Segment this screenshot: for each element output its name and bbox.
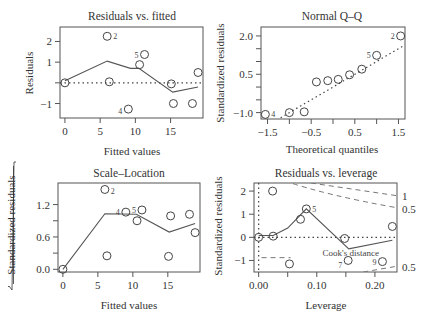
data-point bbox=[300, 108, 308, 116]
cooks-distance-05-upper bbox=[285, 181, 397, 208]
y-tick-label: 2 bbox=[47, 35, 53, 47]
plot-area: −1.5−0.50.51.5−1.00.52.0452 bbox=[233, 27, 406, 138]
data-point bbox=[122, 208, 130, 216]
residuals-vs-leverage-panel: Residuals vs. leverage Leverage Standard… bbox=[212, 167, 416, 311]
data-point bbox=[312, 78, 320, 86]
x-axis-label: Fitted values bbox=[101, 299, 158, 311]
plot-area: 0510150.00.61.2245 bbox=[36, 183, 200, 291]
data-point bbox=[397, 32, 405, 40]
data-point bbox=[136, 61, 144, 69]
data-point bbox=[124, 105, 132, 113]
smoother-line bbox=[65, 61, 198, 92]
panel-title: Residuals vs. leverage bbox=[275, 167, 378, 180]
panel-title: Normal Q–Q bbox=[302, 10, 363, 22]
x-tick-label: 5 bbox=[95, 279, 101, 291]
y-tick-label: −1 bbox=[40, 98, 52, 110]
data-point bbox=[324, 77, 332, 85]
data-point bbox=[297, 215, 305, 223]
data-point bbox=[378, 258, 386, 266]
y-tick-label: −1 bbox=[234, 254, 246, 266]
point-label: 2 bbox=[111, 187, 115, 196]
data-point bbox=[165, 252, 173, 260]
data-point bbox=[346, 71, 354, 79]
data-point bbox=[101, 185, 109, 193]
x-axis-label: Leverage bbox=[306, 299, 347, 311]
data-point bbox=[141, 51, 149, 59]
x-tick-label: −0.5 bbox=[301, 126, 321, 138]
panel-title: Residuals vs. fitted bbox=[88, 10, 176, 22]
smoother-line bbox=[63, 214, 195, 270]
data-point bbox=[105, 78, 113, 86]
point-label: 9 bbox=[372, 258, 376, 267]
normal-qq-panel: Normal Q–Q Theoretical quantiles Standar… bbox=[214, 10, 406, 155]
data-point bbox=[138, 206, 146, 214]
point-label: 5 bbox=[312, 205, 316, 214]
data-point bbox=[358, 65, 366, 73]
x-tick-label: 0 bbox=[60, 279, 66, 291]
point-label: 4 bbox=[271, 110, 275, 119]
x-axis-label: Fitted values bbox=[104, 145, 161, 157]
x-tick-label: 1.5 bbox=[392, 126, 406, 138]
plot-content bbox=[60, 61, 203, 92]
data-point bbox=[269, 232, 277, 240]
cooks-level-label: 0.5 bbox=[402, 261, 416, 273]
data-point bbox=[167, 80, 175, 88]
panel-title: Scale–Location bbox=[93, 167, 165, 179]
point-label: 5 bbox=[367, 51, 371, 60]
x-tick-label: 0 bbox=[62, 125, 68, 137]
data-point bbox=[269, 187, 277, 195]
data-point bbox=[373, 51, 381, 59]
point-label: 5 bbox=[135, 51, 139, 60]
y-tick-label: 1 bbox=[47, 56, 53, 68]
data-point bbox=[133, 217, 141, 225]
smoother-line bbox=[259, 209, 393, 249]
data-point bbox=[186, 210, 194, 218]
data-point bbox=[169, 100, 177, 108]
point-label: 7 bbox=[338, 261, 342, 270]
cooks-distance-05-lower bbox=[363, 266, 397, 272]
y-tick-label: −1.0 bbox=[233, 107, 253, 119]
data-point bbox=[103, 32, 111, 40]
x-tick-label: 15 bbox=[165, 125, 177, 137]
y-tick-label: 0.0 bbox=[36, 263, 50, 275]
x-tick-label: 15 bbox=[162, 279, 174, 291]
cooks-distance-1-upper bbox=[311, 183, 397, 196]
data-point bbox=[188, 100, 196, 108]
y-axis-label: Residuals bbox=[23, 52, 35, 95]
x-axis-label: Theoretical quantiles bbox=[286, 143, 379, 155]
y-axis-label: Standardized residuals bbox=[214, 23, 226, 122]
plot-content bbox=[281, 45, 405, 118]
x-tick-label: 0.5 bbox=[348, 126, 362, 138]
y-tick-label: 2.0 bbox=[239, 30, 253, 42]
x-tick-label: 10 bbox=[127, 279, 139, 291]
x-tick-label: −1.5 bbox=[258, 126, 278, 138]
x-tick-label: 5 bbox=[97, 125, 103, 137]
y-tick-label: 1 bbox=[241, 208, 247, 220]
plot-content bbox=[63, 214, 195, 270]
plot-area: 0.000.100.20−1012Cook's distance10.50.55… bbox=[234, 181, 416, 291]
svg-text:Standardized residuals: Standardized residuals bbox=[5, 175, 17, 274]
y-axis-label: Standardized residuals bbox=[5, 162, 17, 290]
cooks-level-label: 0.5 bbox=[402, 203, 416, 215]
y-tick-label: 2 bbox=[241, 185, 247, 197]
plot-area: 051015−112245 bbox=[40, 27, 203, 137]
y-tick-label: 0.5 bbox=[239, 68, 253, 80]
y-tick-label: 1.2 bbox=[36, 199, 50, 211]
x-tick-label: 10 bbox=[130, 125, 142, 137]
data-point bbox=[167, 212, 175, 220]
y-tick-label: 0 bbox=[241, 231, 247, 243]
data-point bbox=[103, 252, 111, 260]
data-point bbox=[334, 75, 342, 83]
data-point bbox=[194, 69, 202, 77]
qq-reference-line bbox=[281, 45, 405, 118]
scale-location-panel: Scale–Location Fitted values Standardize… bbox=[5, 162, 200, 311]
x-tick-label: 0.00 bbox=[249, 279, 269, 291]
data-point bbox=[191, 229, 199, 237]
data-point bbox=[285, 260, 293, 268]
data-point bbox=[388, 222, 396, 230]
y-tick-label: 0.6 bbox=[36, 231, 50, 243]
diagnostic-plots: Residuals vs. fitted Fitted values Resid… bbox=[0, 0, 428, 323]
cooks-level-label: 1 bbox=[402, 190, 408, 202]
y-axis-label: Standardized residuals bbox=[212, 176, 224, 275]
point-label: 4 bbox=[116, 208, 120, 217]
